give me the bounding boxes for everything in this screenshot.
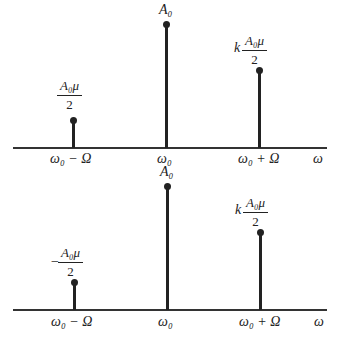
dot-carrier	[164, 183, 171, 190]
stem-lower-sideband	[73, 283, 76, 310]
label-carrier: A₀	[160, 164, 173, 180]
dot-upper-sideband	[257, 229, 264, 236]
tick-center: ω₀	[158, 314, 173, 330]
dot-lower-sideband	[71, 279, 78, 286]
tick-upper: ω₀ + Ω	[239, 314, 280, 330]
top-spectrum: A₀μ 2 A₀ k A₀μ 2 ω₀ − Ω ω₀ ω₀ + Ω ω	[0, 0, 338, 170]
stem-upper-sideband	[258, 71, 261, 148]
label-carrier: A₀	[159, 2, 172, 18]
dot-lower-sideband	[70, 117, 77, 124]
dot-carrier	[163, 21, 170, 28]
axis-label-omega: ω	[314, 314, 324, 330]
label-k: k	[234, 40, 240, 56]
stem-lower-sideband	[72, 121, 75, 148]
bottom-spectrum: − A₀μ 2 A₀ k A₀μ 2 ω₀ − Ω ω₀ ω₀ + Ω ω	[0, 165, 338, 339]
x-axis	[13, 309, 327, 311]
x-axis	[13, 147, 327, 149]
stem-carrier	[165, 25, 168, 148]
label-upper-sideband: A₀μ 2	[243, 195, 268, 230]
tick-lower: ω₀ − Ω	[51, 314, 92, 330]
label-k: k	[235, 202, 241, 218]
dot-upper-sideband	[256, 67, 263, 74]
label-lower-sideband: A₀μ 2	[57, 78, 82, 113]
label-upper-sideband: A₀μ 2	[242, 33, 267, 68]
stem-upper-sideband	[259, 233, 262, 310]
label-lower-sideband: A₀μ 2	[58, 245, 83, 280]
stem-carrier	[166, 187, 169, 310]
